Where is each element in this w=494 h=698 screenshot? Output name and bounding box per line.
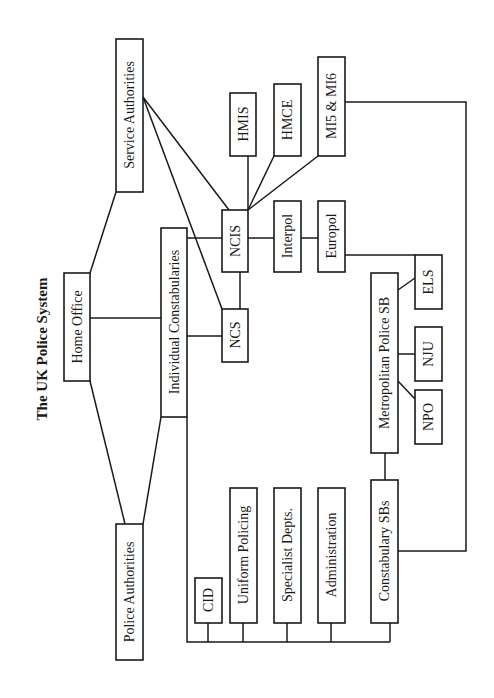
node-npo: NPO (415, 390, 442, 444)
node-home-office: Home Office (64, 273, 90, 381)
node-ncis: NCIS (222, 210, 248, 272)
node-label: Individual Constabularies (167, 250, 182, 394)
node-uniform-policing: Uniform Policing (230, 488, 257, 623)
node-label: Metropolitan Police SB (377, 297, 392, 429)
edge-metsb-npo (398, 381, 415, 399)
edge-metsb-els (398, 278, 415, 290)
node-label: HMIS (236, 106, 251, 141)
node-metropolitan-police-sb: Metropolitan Police SB (371, 273, 398, 453)
node-label: ELS (421, 270, 436, 295)
edge-home-police-auth (90, 381, 125, 524)
node-hmce: HMCE (274, 84, 301, 156)
edge-ncis-hmce (248, 156, 274, 210)
node-label: Europol (324, 213, 339, 258)
node-label: Administration (324, 513, 339, 598)
node-label: NCIS (228, 225, 243, 257)
node-nju: NJU (415, 327, 442, 381)
node-label: CID (201, 588, 216, 612)
node-mi5-mi6: MI5 & MI6 (318, 57, 345, 156)
node-label: Uniform Policing (236, 506, 251, 604)
node-label: NPO (421, 403, 436, 431)
edge-service-ncis (143, 97, 229, 210)
diagram-title: The UK Police System (34, 277, 50, 420)
node-ncs: NCS (222, 309, 248, 362)
node-service-authorities: Service Authorities (116, 39, 143, 192)
node-constabulary-sbs: Constabulary SBs (371, 480, 398, 623)
node-interpol: Interpol (274, 201, 301, 272)
uk-police-system-diagram: The UK Police System (0, 0, 494, 698)
node-individual-constabularies: Individual Constabularies (161, 228, 187, 417)
edge-home-service (90, 192, 116, 273)
node-label: Home Office (70, 290, 85, 363)
node-cid: CID (195, 578, 222, 623)
node-specialist-depts: Specialist Depts. (274, 488, 301, 623)
node-label: Interpol (280, 214, 295, 258)
edge-mi5-constsb (345, 102, 466, 551)
edge-police-auth-individual (143, 417, 161, 524)
node-administration: Administration (318, 488, 345, 623)
node-europol: Europol (318, 201, 345, 272)
node-label: Constabulary SBs (377, 501, 392, 602)
node-police-authorities: Police Authorities (116, 524, 143, 660)
node-label: Specialist Depts. (280, 508, 295, 602)
node-hmis: HMIS (230, 93, 256, 156)
node-label: NJU (421, 341, 436, 367)
node-els: ELS (415, 255, 442, 309)
node-label: MI5 & MI6 (324, 73, 339, 139)
node-label: HMCE (280, 100, 295, 140)
node-label: Service Authorities (122, 61, 137, 169)
node-label: NCS (228, 321, 243, 348)
node-label: Police Authorities (122, 542, 137, 643)
